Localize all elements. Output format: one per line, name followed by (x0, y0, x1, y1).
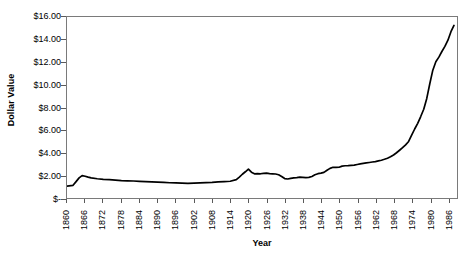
y-tick-mark (61, 130, 66, 131)
x-tick-label: 1986 (432, 203, 466, 237)
y-tick-label: $10.00 (33, 80, 61, 90)
y-tick-mark (61, 39, 66, 40)
x-axis-title: Year (66, 238, 458, 248)
y-tick-mark (61, 16, 66, 17)
y-tick-label: $4.00 (38, 148, 61, 158)
chart-figure: Dollar Value $16.00$14.00$12.00$10.00$8.… (0, 0, 467, 257)
y-axis-tick-labels: $16.00$14.00$12.00$10.00$8.00$6.00$4.00$… (22, 16, 64, 199)
line-chart-svg (67, 17, 457, 198)
y-tick-label: $6.00 (38, 125, 61, 135)
y-tick-label: $16.00 (33, 11, 61, 21)
plot-area (66, 16, 458, 199)
y-tick-mark (61, 153, 66, 154)
y-tick-label: $12.00 (33, 57, 61, 67)
y-tick-label: $8.00 (38, 103, 61, 113)
y-tick-mark (61, 108, 66, 109)
y-tick-mark (61, 176, 66, 177)
y-tick-mark (61, 85, 66, 86)
y-tick-label: $14.00 (33, 34, 61, 44)
x-tick-label-text: 1986 (444, 210, 454, 230)
y-tick-mark (61, 62, 66, 63)
y-axis-title-label: Dollar Value (6, 74, 16, 127)
y-axis-title: Dollar Value (0, 0, 22, 200)
y-tick-label: $2.00 (38, 171, 61, 181)
series-line-dollar-value (67, 25, 454, 186)
x-axis-tick-labels: 1860186618721878188418901896190219081914… (66, 203, 458, 237)
